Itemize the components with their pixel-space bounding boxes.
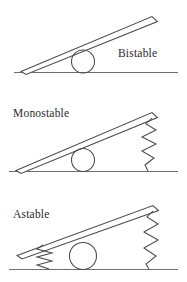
circle-roller-icon (72, 149, 95, 172)
tilted-bar-icon (21, 17, 158, 75)
tilted-bar-icon (16, 113, 158, 174)
stability-figure: Bistable Monostable (0, 0, 187, 282)
panel-label-monostable: Monostable (13, 107, 69, 119)
panel-bistable: Bistable (0, 0, 187, 94)
panel-astable: Astable (0, 188, 187, 282)
zigzag-spring-icon-right (142, 118, 156, 171)
panel-label-bistable: Bistable (118, 47, 157, 59)
circle-roller-icon (72, 50, 95, 73)
panel-label-astable: Astable (13, 208, 50, 220)
zigzag-spring-icon-right (144, 211, 158, 269)
panel-monostable: Monostable (0, 94, 187, 188)
circle-roller-icon (70, 243, 97, 270)
